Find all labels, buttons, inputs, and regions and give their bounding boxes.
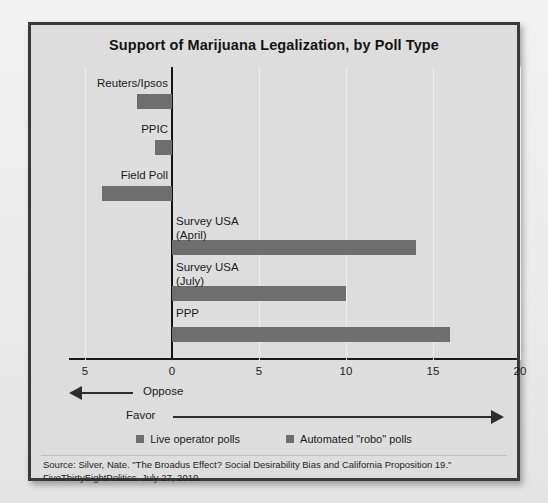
x-axis-tick-label: 20 (505, 365, 535, 377)
oppose-label: Oppose (143, 385, 183, 397)
x-axis-tick-label: 15 (418, 365, 448, 377)
bar-category-label: Field Poll (31, 169, 170, 183)
bar-category-label: PPP (176, 307, 199, 321)
favor-arrow-shaft (173, 416, 493, 418)
bar (172, 327, 450, 342)
legend-label: Live operator polls (150, 433, 240, 445)
legend-label: Automated "robo" polls (300, 433, 412, 445)
gridline (85, 67, 86, 360)
plot-area: 505101520Reuters/IpsosPPICField PollSurv… (31, 65, 517, 360)
source-line-1: Source: Silver, Nate. "The Broadus Effec… (43, 459, 505, 472)
bar (155, 140, 172, 155)
gridline (346, 67, 347, 360)
source-divider (41, 455, 507, 456)
direction-annotations: Oppose Favor (31, 383, 517, 431)
chart-panel: Support of Marijuana Legalization, by Po… (28, 22, 520, 481)
chart-legend: Live operator polls Automated "robo" pol… (31, 433, 517, 445)
favor-label: Favor (126, 409, 155, 421)
x-axis-tick-label: 5 (244, 365, 274, 377)
legend-item-automated-robo: Automated "robo" polls (286, 433, 412, 445)
zero-axis-line (171, 67, 173, 360)
gridline (433, 67, 434, 360)
oppose-arrow-shaft (81, 392, 133, 394)
screenshot-canvas: Support of Marijuana Legalization, by Po… (0, 0, 548, 503)
source-line-2: FiveThirtyEightPolitics. July 27, 2010. (43, 472, 505, 485)
chart-panel-inner: Support of Marijuana Legalization, by Po… (31, 25, 517, 478)
legend-swatch-icon (136, 435, 144, 443)
x-axis-tick-label: 0 (157, 365, 187, 377)
gridline (520, 67, 521, 360)
bar (102, 186, 172, 201)
bar-category-label: Reuters/Ipsos (31, 77, 170, 91)
arrow-right-icon (491, 410, 504, 424)
bar-category-label: PPIC (31, 123, 170, 137)
bar-category-label: Survey USA (April) (176, 215, 239, 242)
legend-item-live-operator: Live operator polls (136, 433, 240, 445)
page-title: Support of Marijuana Legalization, by Po… (31, 37, 517, 53)
bar-category-label: Survey USA (July) (176, 261, 239, 288)
x-axis-tick-label: 10 (331, 365, 361, 377)
x-axis-line (69, 358, 517, 360)
bar (172, 286, 346, 301)
bar (172, 240, 416, 255)
x-axis-tick-label: 5 (70, 365, 100, 377)
legend-swatch-icon (286, 435, 294, 443)
source-footnote: Source: Silver, Nate. "The Broadus Effec… (43, 459, 505, 484)
gridline (259, 67, 260, 360)
bar (137, 94, 172, 109)
